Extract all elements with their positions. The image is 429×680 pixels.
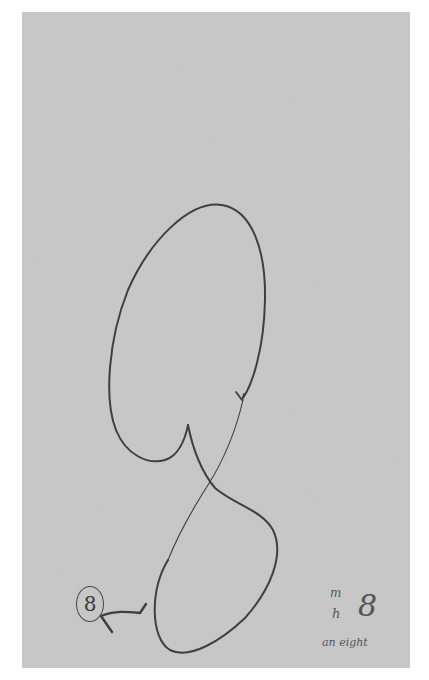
note-caption: an eight	[322, 636, 368, 649]
circled-number-label: 8	[76, 586, 104, 622]
r-stroke	[101, 604, 146, 632]
note-h: h	[332, 606, 340, 621]
note-digit-eight: 8	[358, 588, 377, 623]
hook-stroke	[236, 392, 244, 400]
cusp-stroke	[155, 425, 277, 653]
note-m: m	[330, 586, 341, 600]
upper-loop-stroke	[109, 205, 265, 462]
line-drawing	[0, 0, 429, 680]
thin-descending-line	[168, 400, 243, 560]
